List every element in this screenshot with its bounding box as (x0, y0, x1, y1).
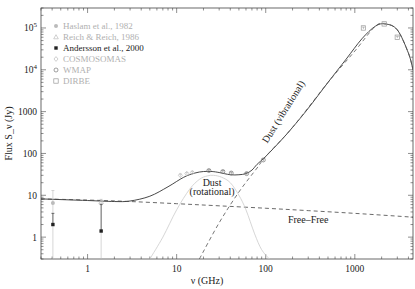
legend-marker (54, 24, 58, 28)
x-tick-label: 10 (172, 264, 182, 274)
y-tick-label: 1000 (18, 107, 37, 117)
chart: 11010010001101001000104105 Dust(rotation… (0, 0, 415, 289)
y-tick-label: 10 (28, 191, 38, 201)
annotation-label: (rotational) (190, 186, 235, 198)
series-free-free (41, 199, 413, 217)
legend: Haslam et al., 1982Reich & Reich, 1986An… (54, 21, 145, 86)
y-tick-label: 105 (24, 21, 38, 33)
legend-label: Reich & Reich, 1986 (63, 32, 139, 42)
legend-marker (54, 46, 57, 49)
legend-label: DIRBE (63, 76, 91, 86)
legend-item: COSMOSOMAS (54, 54, 126, 64)
data-point (361, 26, 365, 30)
legend-item: Reich & Reich, 1986 (54, 32, 140, 42)
x-tick-label: 1000 (345, 264, 364, 274)
legend-item: Andersson et al., 2000 (54, 43, 144, 53)
annotation-label: Free–Free (288, 214, 329, 225)
legend-label: Andersson et al., 2000 (63, 43, 144, 53)
legend-item: WMAP (54, 65, 91, 75)
legend-marker (54, 35, 59, 39)
point-marker (51, 201, 55, 205)
legend-label: Haslam et al., 1982 (63, 21, 133, 31)
data-point (99, 205, 102, 233)
x-axis-title: ν (GHz) (191, 275, 224, 287)
y-axis-title: Flux S_ν (Jy) (3, 107, 15, 161)
point-marker (51, 223, 54, 226)
legend-item: Haslam et al., 1982 (54, 21, 133, 31)
y-tick-label: 100 (23, 149, 38, 159)
legend-item: DIRBE (54, 76, 91, 86)
x-tick-label: 1 (85, 264, 90, 274)
legend-marker (54, 57, 58, 62)
y-tick-label: 104 (24, 63, 38, 75)
legend-label: COSMOSOMAS (63, 54, 126, 64)
annotation-layer: Dust(rotational)Dust (vibrational)Free–F… (190, 79, 329, 225)
data-point (207, 169, 211, 173)
y-tick-label: 1 (32, 233, 37, 243)
legend-marker (54, 68, 58, 72)
data-point (178, 173, 182, 178)
legend-marker (54, 79, 58, 83)
x-tick-label: 100 (259, 264, 274, 274)
annotation-label: Dust (vibrational) (260, 79, 308, 146)
point-marker (99, 229, 102, 232)
data-point (395, 35, 399, 39)
data-point (51, 213, 54, 226)
legend-label: WMAP (63, 65, 91, 75)
